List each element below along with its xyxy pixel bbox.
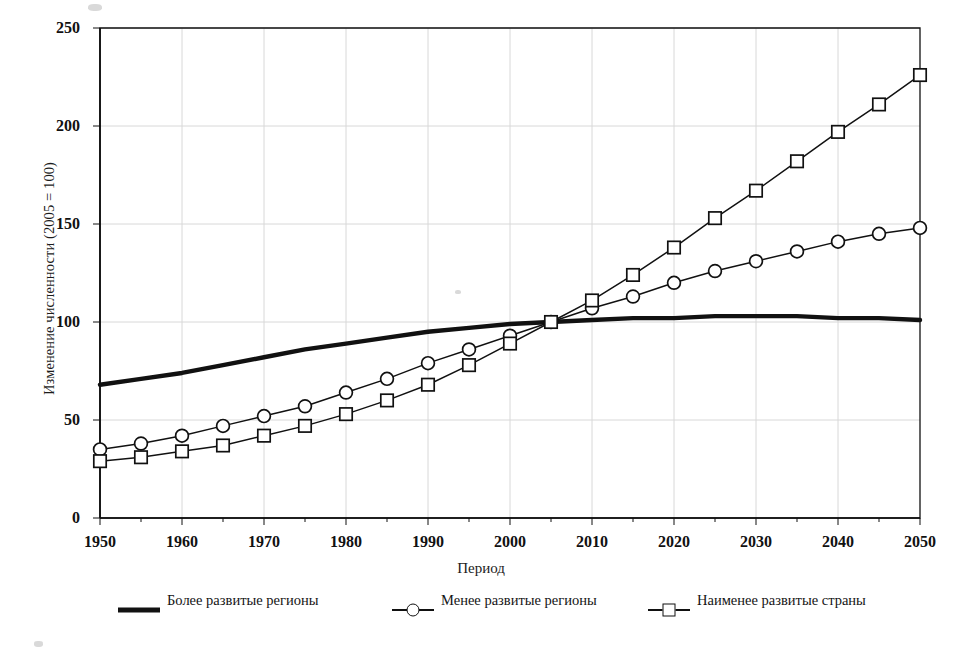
legend-item-least-developed[interactable]: Наименее развитые страны [648, 592, 866, 621]
plot-area [0, 0, 962, 650]
legend-item-less-developed[interactable]: Менее развитые регионы [392, 592, 597, 621]
minor-tick-marks [100, 518, 920, 525]
legend-label: Менее развитые регионы [441, 592, 597, 609]
thick-line-key-icon [118, 599, 160, 621]
legend-label: Более развитые регионы [167, 592, 318, 609]
legend-label: Наименее развитые страны [697, 592, 866, 609]
square-marker-key-icon [648, 599, 690, 621]
legend-item-more-developed[interactable]: Более развитые регионы [118, 592, 318, 621]
circle-marker-key-icon [392, 599, 434, 621]
chart-figure: Изменение численности (2005 = 100) Перио… [0, 0, 962, 650]
chart-legend: Более развитые регионы Менее развитые ре… [0, 592, 962, 644]
